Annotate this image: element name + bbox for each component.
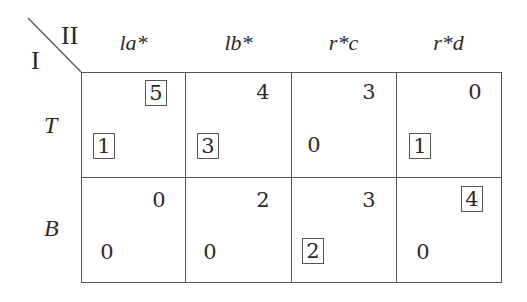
payoff-p2: 3: [358, 80, 380, 106]
column-header-3: r*c: [291, 30, 396, 56]
payoff-p2: 0: [464, 80, 486, 106]
payoff-p2: 2: [252, 188, 274, 214]
payoff-p2: 4: [252, 80, 274, 106]
row-header-1: T: [44, 112, 57, 139]
row-header-2: B: [44, 215, 59, 242]
payoff-p2: 3: [358, 188, 380, 214]
payoff-p1: 2: [302, 238, 324, 264]
payoff-p1: 0: [199, 240, 221, 266]
payoff-p1: 0: [412, 240, 434, 266]
payoff-p2: 4: [461, 186, 483, 212]
payoff-p1: 0: [303, 133, 325, 159]
payoff-p1: 0: [96, 240, 118, 266]
payoff-p1: 1: [93, 133, 115, 159]
payoff-p1: 3: [197, 133, 219, 159]
column-header-4: r*d: [396, 30, 501, 56]
payoff-p2: 0: [148, 188, 170, 214]
column-header-1: la*: [81, 30, 186, 56]
payoff-p2: 5: [145, 80, 167, 106]
row-player-label: I: [31, 46, 40, 76]
column-player-label: II: [61, 21, 78, 51]
payoff-p1: 1: [409, 133, 431, 159]
grid-divider: [81, 177, 502, 178]
column-header-2: lb*: [186, 30, 291, 56]
